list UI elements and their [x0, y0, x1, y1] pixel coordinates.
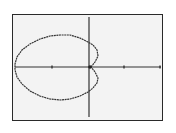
graph-figure [0, 0, 176, 133]
origin-marker [88, 65, 92, 69]
polar-graph [0, 0, 176, 133]
